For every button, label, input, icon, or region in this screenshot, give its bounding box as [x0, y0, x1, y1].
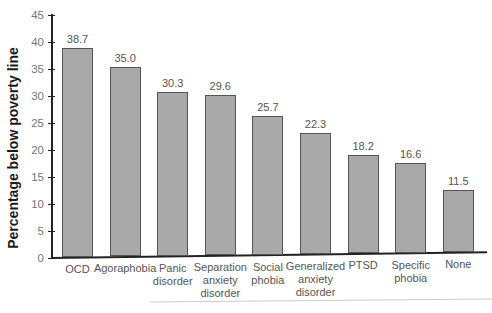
y-tick-label: 15	[18, 171, 44, 183]
bar-value-label: 30.3	[151, 77, 195, 89]
bar-value-label: 16.6	[389, 148, 433, 160]
bar-value-label: 11.5	[436, 175, 480, 187]
y-tick-label: 30	[18, 90, 44, 102]
bar-value-label: 18.2	[341, 140, 385, 152]
bar	[252, 116, 283, 255]
y-tick-label: 40	[18, 36, 44, 48]
y-tick	[48, 96, 55, 97]
y-tick-label: 0	[18, 252, 44, 264]
y-tick	[48, 258, 55, 259]
bar	[348, 155, 379, 253]
y-tick	[48, 177, 55, 178]
bar-value-label: 25.7	[246, 101, 290, 113]
y-tick-label: 20	[18, 144, 44, 156]
category-label: None	[423, 258, 492, 271]
category-label-line: phobia	[376, 272, 446, 285]
bar-value-label: 29.6	[198, 80, 242, 92]
y-tick	[48, 123, 55, 124]
y-axis-line	[51, 14, 53, 259]
category-label-line: None	[423, 258, 492, 271]
y-tick-label: 10	[18, 198, 44, 210]
bar-value-label: 22.3	[294, 118, 338, 130]
bar-value-label: 35.0	[103, 52, 147, 64]
y-tick	[48, 69, 55, 70]
y-tick-label: 35	[18, 63, 44, 75]
bar-chart: Percentage below poverty line 0510152025…	[0, 0, 492, 313]
y-tick	[48, 231, 55, 232]
y-tick-label: 5	[18, 225, 44, 237]
category-label-line: disorder	[281, 286, 351, 299]
bar	[157, 92, 188, 256]
bar	[205, 95, 236, 255]
y-tick-label: 25	[18, 117, 44, 129]
bar-value-label: 38.7	[56, 33, 100, 45]
y-tick	[48, 15, 55, 16]
category-label-line: disorder	[185, 287, 255, 300]
bar	[443, 190, 474, 252]
bar	[62, 48, 93, 257]
bar	[300, 133, 331, 253]
y-tick	[48, 150, 55, 151]
y-tick	[48, 42, 55, 43]
y-tick-label: 45	[18, 9, 44, 21]
y-tick	[48, 204, 55, 205]
category-label-line: anxiety	[281, 273, 351, 286]
bar	[110, 67, 141, 256]
bar	[395, 163, 426, 253]
